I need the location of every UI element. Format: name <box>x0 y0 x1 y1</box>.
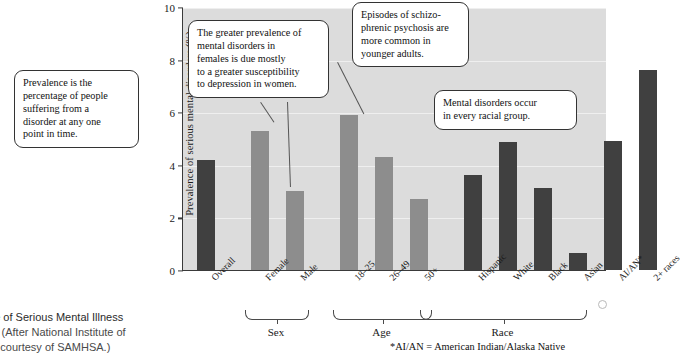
callout-females: The greater prevalence of mental disorde… <box>188 20 329 98</box>
callout-schizophrenia-line2: phrenic psychosis are <box>361 22 460 35</box>
callout-prevalence-line1: Prevalence is the <box>23 77 130 90</box>
callout-females-line1: The greater prevalence of <box>197 27 320 40</box>
bar-50 <box>410 199 428 270</box>
ytick-label-8: 8 <box>139 55 183 67</box>
bar-26-49 <box>375 157 393 270</box>
ytick-label-2: 2 <box>139 212 183 224</box>
ytick-label-6: 6 <box>139 107 183 119</box>
callout-females-line4: to a greater susceptibility <box>197 66 320 79</box>
group-label-race: Race <box>420 326 585 338</box>
bracket-age <box>333 310 432 320</box>
group-label-sex: Sex <box>245 326 307 338</box>
bracket-sex <box>245 310 309 320</box>
callout-schizophrenia-line1: Episodes of schizo- <box>361 9 460 22</box>
callout-females-line3: females is due mostly <box>197 53 320 66</box>
callout-racial-line1: Mental disorders occur <box>443 97 568 110</box>
callout-prevalence-line3: suffering from a <box>23 103 130 116</box>
callout-schizophrenia-line3: more common in <box>361 35 460 48</box>
corner-marker-icon <box>598 300 607 309</box>
callout-racial-line2: in every racial group. <box>443 110 568 123</box>
bar-2-races <box>639 70 657 270</box>
figure-caption: lence of Serious Mental Illness 2016 (Af… <box>0 310 234 355</box>
callout-schizophrenia: Episodes of schizo- phrenic psychosis ar… <box>352 2 469 67</box>
caption-line2-rest: (After National Institute of <box>2 326 126 338</box>
ytick-label-4: 4 <box>139 160 183 172</box>
bar-asian <box>569 253 587 270</box>
bracket-tick-sex <box>277 319 278 324</box>
bracket-tick-race <box>504 319 505 324</box>
bar-overall <box>197 160 215 270</box>
callout-females-line2: mental disorders in <box>197 40 320 53</box>
callout-prevalence-line2: percentage of people <box>23 90 130 103</box>
callout-racial: Mental disorders occur in every racial g… <box>434 90 577 130</box>
bracket-tick-age <box>383 319 384 324</box>
footnote-ai-an: *AI/AN = American Indian/Alaska Native <box>390 341 565 352</box>
gridline-4 <box>183 166 606 167</box>
group-label-age: Age <box>333 326 430 338</box>
bar-hispanic <box>464 175 482 270</box>
callout-prevalence-line5: point in time. <box>23 128 130 141</box>
bar-white <box>499 142 517 270</box>
callout-prevalence-line4: disorder at any one <box>23 116 130 129</box>
caption-line2: 2016 (After National Institute of <box>0 325 234 340</box>
callout-schizophrenia-line4: younger adults. <box>361 48 460 61</box>
ytick-label-0: 0 <box>139 265 183 277</box>
caption-line3: Data courtesy of SAMHSA.) <box>0 340 234 355</box>
bar-18-25 <box>340 115 358 270</box>
callout-females-line5: to depression in women. <box>197 78 320 91</box>
caption-line1: lence of Serious Mental Illness <box>0 310 234 325</box>
bar-black <box>534 188 552 270</box>
bar-male <box>286 191 304 270</box>
callout-prevalence: Prevalence is the percentage of people s… <box>14 70 139 148</box>
bracket-race <box>420 310 587 320</box>
bar-female <box>251 131 269 270</box>
ytick-label-10: 10 <box>139 2 183 14</box>
bar-ai-an <box>604 141 622 270</box>
